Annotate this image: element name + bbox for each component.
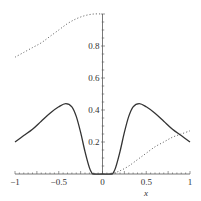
axes [15,14,190,174]
x-tick-label: −0.5 [51,177,68,187]
y-tick-label: 0.2 [88,137,99,147]
y-tick-label: 0.6 [88,73,100,83]
y-tick-label: 0.4 [88,105,100,115]
tick-labels: −1−0.500.510.20.40.60.8 [10,41,192,187]
x-tick-label: −1 [10,177,20,187]
x-tick-label: 0 [100,177,105,187]
x-tick-label: 0.5 [141,177,153,187]
x-tick-label: 1 [188,177,193,187]
x-axis-label: x [143,188,148,198]
line-chart: −1−0.500.510.20.40.60.8 x [0,0,201,201]
y-tick-label: 0.8 [88,41,100,51]
